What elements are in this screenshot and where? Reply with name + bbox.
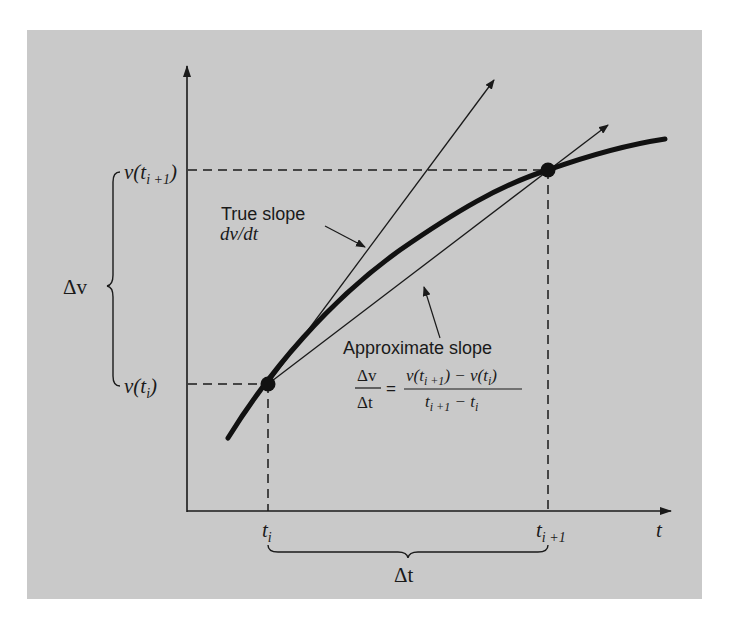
- y-label-ti: v(ti): [124, 374, 157, 401]
- svg-text:=: =: [386, 379, 396, 398]
- point-ti1: [541, 163, 556, 178]
- delta-v-label: Δv: [63, 275, 88, 299]
- svg-text:Δt: Δt: [357, 393, 373, 412]
- figure-panel: [27, 30, 702, 599]
- svg-text:v(ti +1) − v(ti): v(ti +1) − v(ti): [406, 366, 497, 388]
- delta-t-label: Δt: [394, 563, 414, 587]
- svg-text:Δv: Δv: [357, 366, 377, 385]
- figure: Δv v(ti +1) v(ti) ti ti +1 t Δt True slo…: [0, 0, 739, 627]
- point-ti: [261, 377, 276, 392]
- true-slope-title: True slope: [221, 204, 305, 224]
- approx-slope-title: Approximate slope: [343, 338, 492, 358]
- true-slope-expr: dv/dt: [220, 223, 259, 244]
